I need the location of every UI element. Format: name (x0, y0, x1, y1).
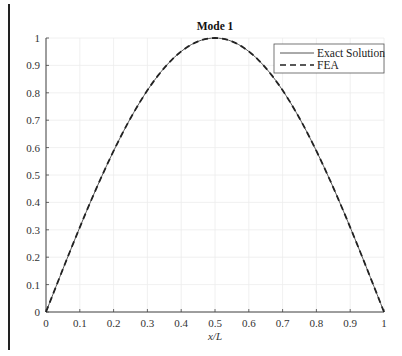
grid-lines (46, 38, 384, 312)
y-tick-label: 0.7 (26, 114, 40, 126)
y-tick-label: 0.2 (26, 251, 40, 263)
x-tick-label: 0.5 (208, 317, 222, 329)
x-axis-label: x/L (207, 330, 222, 342)
y-tick-label: 0.4 (26, 196, 40, 208)
legend-item-exact-solution: Exact Solution (317, 47, 385, 59)
x-tick-label: 0.9 (343, 317, 357, 329)
legend-item-fea: FEA (317, 59, 339, 71)
y-tick-label: 0.5 (26, 169, 40, 181)
x-tick-label: 0 (43, 317, 49, 329)
legend: Exact Solution FEA (274, 44, 385, 73)
x-tick-label: 0.7 (276, 317, 290, 329)
x-tick-label: 0.1 (73, 317, 87, 329)
y-tick-label: 0.6 (26, 142, 40, 154)
y-tick-label: 0.3 (26, 224, 40, 236)
y-tick-label: 0.8 (26, 87, 40, 99)
x-tick-label: 0.4 (174, 317, 188, 329)
y-tick-label: 0.1 (26, 279, 40, 291)
y-tick-label: 0 (35, 306, 41, 318)
x-tick-label: 0.6 (242, 317, 256, 329)
mode-1-chart: 00.10.20.30.40.50.60.70.80.9100.10.20.30… (0, 0, 402, 356)
x-tick-label: 0.3 (141, 317, 155, 329)
x-tick-label: 0.2 (107, 317, 121, 329)
chart-title: Mode 1 (197, 20, 234, 32)
x-tick-label: 0.8 (310, 317, 324, 329)
y-tick-label: 0.9 (26, 59, 40, 71)
y-tick-label: 1 (35, 32, 41, 44)
x-tick-label: 1 (381, 317, 387, 329)
